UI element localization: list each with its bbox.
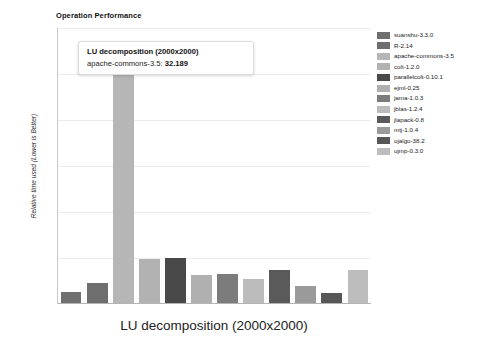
legend-item[interactable]: ujmp-0.3.0: [377, 146, 481, 157]
bar[interactable]: [113, 50, 134, 303]
legend-item[interactable]: jlapack-0.8: [377, 114, 481, 125]
chart-title: Operation Performance: [56, 11, 141, 20]
legend-item[interactable]: ojalgo-38.2: [377, 135, 481, 146]
legend-item-label: jblas-1.2.4: [394, 106, 423, 112]
legend-item[interactable]: ejml-0.25: [377, 83, 481, 94]
legend-swatch-icon: [377, 32, 390, 39]
legend-item-label: ejml-0.25: [394, 85, 419, 91]
legend-swatch-icon: [377, 116, 390, 123]
bar[interactable]: [321, 293, 342, 303]
legend-swatch-icon: [377, 63, 390, 70]
legend-item-label: colt-1.2.0: [394, 64, 419, 70]
legend-item[interactable]: suanshu-3.3.0: [377, 30, 481, 41]
legend-item[interactable]: mtj-1.0.4: [377, 125, 481, 136]
legend-item[interactable]: jblas-1.2.4: [377, 104, 481, 115]
tooltip-series-label: apache-commons-3.5:: [87, 59, 163, 68]
legend-item[interactable]: apache-commons-3.5: [377, 51, 481, 62]
bar[interactable]: [269, 270, 290, 303]
legend-item-label: ojalgo-38.2: [394, 138, 425, 144]
legend-swatch-icon: [377, 85, 390, 92]
bar[interactable]: [243, 279, 264, 303]
legend-item-label: ujmp-0.3.0: [394, 148, 423, 154]
bar[interactable]: [217, 274, 238, 303]
legend-swatch-icon: [377, 137, 390, 144]
legend-item-label: parallelcolt-0.10.1: [394, 74, 443, 80]
legend-swatch-icon: [377, 127, 390, 134]
chart-container: Operation Performance Relative time used…: [0, 0, 482, 349]
bar[interactable]: [139, 259, 160, 303]
y-axis-title: Relative time used (Lower is Better): [30, 28, 44, 304]
bar[interactable]: [295, 286, 316, 303]
legend-swatch-icon: [377, 74, 390, 81]
legend-item[interactable]: colt-1.2.0: [377, 62, 481, 73]
legend-swatch-icon: [377, 53, 390, 60]
tooltip-series-value: 32.189: [165, 59, 188, 68]
bar[interactable]: [61, 292, 82, 303]
legend-swatch-icon: [377, 148, 390, 155]
legend-item[interactable]: jama-1.0.3: [377, 93, 481, 104]
bar[interactable]: [165, 258, 186, 303]
tooltip-series-row: apache-commons-3.5: 32.189: [87, 59, 245, 68]
legend-swatch-icon: [377, 42, 390, 49]
x-axis-title: LU decomposition (2000x2000): [57, 318, 371, 333]
legend: suanshu-3.3.0R-2.14apache-commons-3.5col…: [377, 30, 481, 157]
bar[interactable]: [191, 275, 212, 303]
legend-item-label: apache-commons-3.5: [394, 53, 454, 59]
legend-item-label: R-2.14: [394, 43, 413, 49]
legend-item[interactable]: parallelcolt-0.10.1: [377, 72, 481, 83]
legend-swatch-icon: [377, 95, 390, 102]
bar[interactable]: [348, 270, 369, 303]
legend-item-label: suanshu-3.3.0: [394, 32, 433, 38]
legend-item-label: jama-1.0.3: [394, 95, 423, 101]
legend-item[interactable]: R-2.14: [377, 41, 481, 52]
tooltip: LU decomposition (2000x2000) apache-comm…: [78, 41, 254, 75]
bar[interactable]: [87, 283, 108, 303]
tooltip-title: LU decomposition (2000x2000): [87, 47, 245, 56]
legend-item-label: mtj-1.0.4: [394, 127, 418, 133]
legend-swatch-icon: [377, 106, 390, 113]
legend-item-label: jlapack-0.8: [394, 117, 424, 123]
